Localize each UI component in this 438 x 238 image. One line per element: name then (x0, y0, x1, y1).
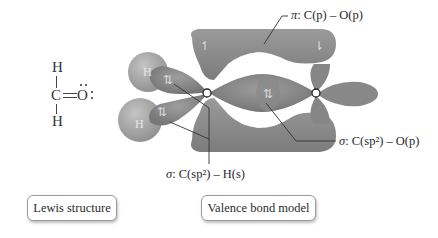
sigma-co-label: σ: C(sp²) – O(p) (339, 134, 419, 149)
carbon-nucleus (203, 89, 211, 97)
electron-up-arrow: ↿ (200, 39, 210, 53)
electron-pair-ch-top: ⇅ (163, 73, 173, 87)
oxygen-nucleus (312, 89, 320, 97)
electron-pair-ch-bottom: ⇅ (157, 105, 167, 119)
pi-bond-text: : C(p) – O(p) (297, 8, 363, 22)
valence-bond-caption: Valence bond model (201, 195, 316, 221)
lewis-structure-caption: Lewis structure (27, 195, 117, 221)
sigma-co-text: : C(sp²) – O(p) (345, 134, 419, 148)
sigma-ch-label: σ: C(sp²) – H(s) (166, 167, 245, 182)
oxygen-lone-pair-lobe-right (318, 82, 378, 107)
electron-pair-co: ⇅ (263, 87, 273, 101)
hydrogen-label-top: H (143, 65, 152, 79)
sigma-ch-text: : C(sp²) – H(s) (172, 167, 245, 181)
pi-bond-label: π: C(p) – O(p) (291, 8, 363, 23)
sigma-ch-lobe-top (150, 66, 207, 94)
hydrogen-label-bottom: H (135, 117, 144, 131)
electron-down-arrow: ⇂ (314, 39, 324, 53)
